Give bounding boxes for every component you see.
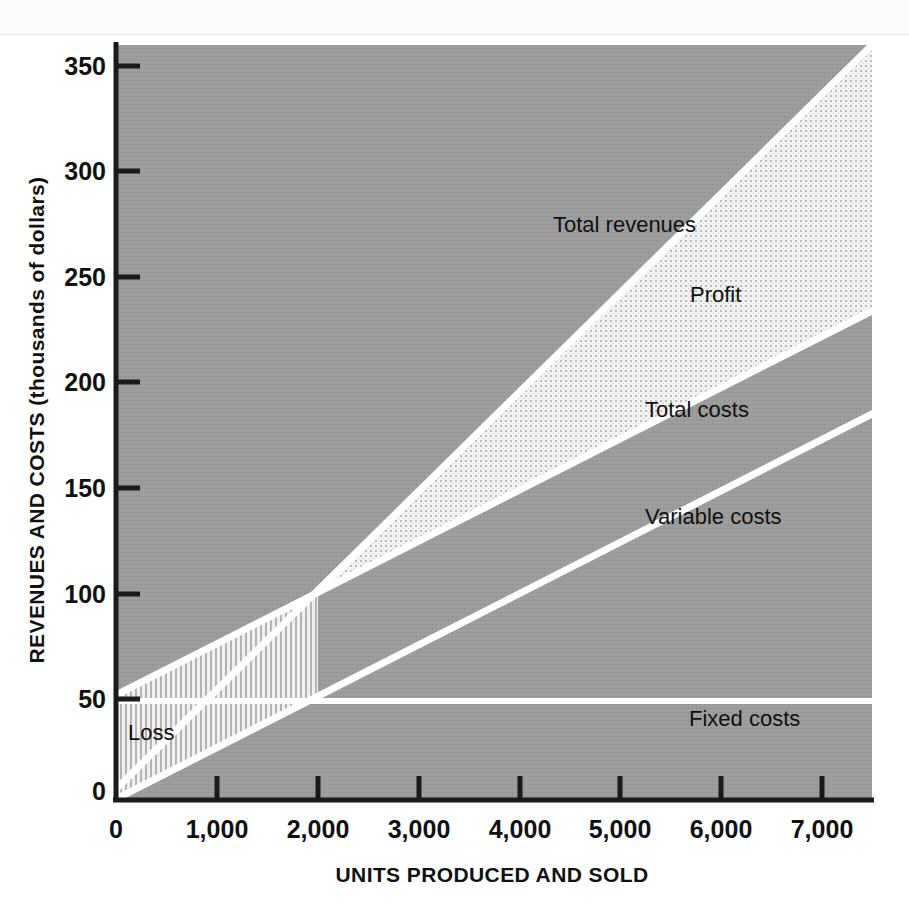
- x-tick-3000: 3,000: [388, 815, 451, 843]
- label-profit: Profit: [690, 282, 741, 307]
- y-tick-300: 300: [64, 157, 106, 185]
- y-tick-50: 50: [78, 685, 106, 713]
- x-tick-5000: 5,000: [589, 815, 652, 843]
- y-tick-350: 350: [64, 52, 106, 80]
- y-tick-250: 250: [64, 263, 106, 291]
- y-axis-title: REVENUES AND COSTS (thousands of dollars…: [25, 177, 48, 664]
- x-tick-4000: 4,000: [489, 815, 552, 843]
- x-axis-title: UNITS PRODUCED AND SOLD: [336, 863, 649, 886]
- label-fixed-costs: Fixed costs: [689, 706, 800, 731]
- y-tick-0: 0: [92, 777, 106, 805]
- x-tick-2000: 2,000: [287, 815, 350, 843]
- scan-top-rule: [0, 33, 909, 36]
- chart-svg: 350 300 250 200 150 100 50 0 0 1,000 2,0…: [0, 0, 909, 910]
- x-tick-6000: 6,000: [690, 815, 753, 843]
- label-loss: Loss: [128, 720, 174, 745]
- y-tick-150: 150: [64, 474, 106, 502]
- x-tick-0: 0: [109, 815, 123, 843]
- y-tick-100: 100: [64, 580, 106, 608]
- label-total-revenues: Total revenues: [553, 212, 696, 237]
- x-tick-1000: 1,000: [186, 815, 249, 843]
- label-total-costs: Total costs: [645, 397, 749, 422]
- label-variable-costs: Variable costs: [645, 504, 782, 529]
- x-tick-7000: 7,000: [791, 815, 854, 843]
- plot-area: [116, 45, 872, 800]
- y-tick-200: 200: [64, 368, 106, 396]
- cvp-break-even-chart: 350 300 250 200 150 100 50 0 0 1,000 2,0…: [0, 0, 909, 910]
- scan-top-band: [0, 0, 909, 36]
